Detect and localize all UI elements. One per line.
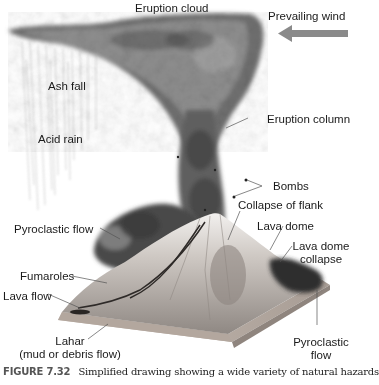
label-pyroclastic-flow-right: Pyroclastic flow <box>290 336 352 362</box>
label-pyroclastic-flow-left: Pyroclastic flow <box>14 223 93 236</box>
label-lahar-line1: Lahar <box>10 335 130 348</box>
label-eruption-column: Eruption column <box>267 113 350 126</box>
figure-number: FIGURE 7.32 <box>3 366 70 377</box>
label-lava-dome: Lava dome <box>257 220 314 233</box>
label-lahar: Lahar (mud or debris flow) <box>10 335 130 361</box>
label-ash-fall: Ash fall <box>48 80 86 93</box>
label-fumaroles: Fumaroles <box>20 270 74 283</box>
cloud-texture <box>8 12 268 152</box>
figure-caption: FIGURE 7.32Simplified drawing showing a … <box>3 366 379 377</box>
label-lava-dome-collapse-line1: Lava dome <box>290 240 352 253</box>
label-pyroclastic-flow-right-line2: flow <box>290 349 352 362</box>
label-lava-dome-collapse: Lava dome collapse <box>290 240 352 266</box>
label-collapse-of-flank: Collapse of flank <box>238 199 323 212</box>
label-pyroclastic-flow-right-line1: Pyroclastic <box>290 336 352 349</box>
label-eruption-cloud: Eruption cloud <box>135 2 209 15</box>
label-bombs: Bombs <box>273 180 309 193</box>
label-lava-dome-collapse-line2: collapse <box>290 253 352 266</box>
figure-caption-text: Simplified drawing showing a wide variet… <box>78 366 379 377</box>
label-acid-rain: Acid rain <box>38 133 83 146</box>
label-prevailing-wind: Prevailing wind <box>268 10 345 23</box>
prevailing-wind-arrow-icon <box>278 25 348 42</box>
label-lava-flow: Lava flow <box>3 290 52 303</box>
label-lahar-line2: (mud or debris flow) <box>10 348 130 361</box>
lava-flow-pool <box>70 310 90 315</box>
